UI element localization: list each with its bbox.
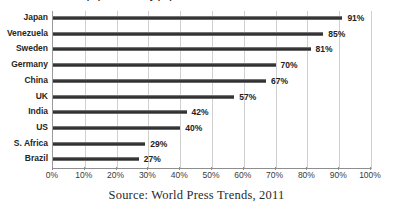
bar-row: 91% [53, 11, 371, 27]
category-label-germany: Germany [0, 57, 48, 71]
bar-value-label: 27% [144, 152, 161, 166]
bar-row: 57% [53, 90, 371, 106]
x-axis-ticks: 0%10%20%30%40%50%60%70%80%90%100% [52, 170, 372, 184]
x-tick-label: 30% [139, 170, 156, 180]
bar-row: 42% [53, 105, 371, 121]
bar-sweden [53, 47, 311, 51]
category-label-india: India [0, 104, 48, 118]
bar-japan [53, 16, 342, 20]
plot-area: 91%85%81%70%67%57%42%40%29%27% [52, 11, 372, 169]
bar-value-label: 57% [239, 90, 256, 104]
bar-s-africa [53, 142, 145, 146]
bar-value-label: 67% [271, 74, 288, 88]
x-tick-label: 80% [298, 170, 315, 180]
bar-value-label: 40% [185, 121, 202, 135]
bar-china [53, 79, 266, 83]
bar-row: 29% [53, 137, 371, 153]
x-tick-label: 90% [330, 170, 347, 180]
category-label-us: US [0, 120, 48, 134]
category-label-s-africa: S. Africa [0, 136, 48, 150]
bar-row: 40% [53, 121, 371, 137]
gridline-100 [371, 11, 372, 168]
bar-value-label: 81% [316, 42, 333, 56]
bar-value-label: 91% [347, 11, 364, 25]
bar-us [53, 126, 180, 130]
clipped-chart-title-text: Newspapers read by population [62, 0, 207, 1]
x-tick-label: 20% [107, 170, 124, 180]
bar-row: 67% [53, 74, 371, 90]
bar-row: 85% [53, 27, 371, 43]
bars-layer: 91%85%81%70%67%57%42%40%29%27% [53, 11, 371, 168]
bar-value-label: 42% [192, 105, 209, 119]
x-tick-label: 70% [266, 170, 283, 180]
x-tick-label: 40% [171, 170, 188, 180]
bar-india [53, 110, 187, 114]
bar-brazil [53, 157, 139, 161]
source-caption: Source: World Press Trends, 2011 [0, 188, 393, 203]
bar-germany [53, 63, 276, 67]
x-tick-label: 10% [75, 170, 92, 180]
x-tick-label: 50% [202, 170, 219, 180]
bar-row: 81% [53, 42, 371, 58]
bar-value-label: 70% [281, 58, 298, 72]
x-tick-label: 60% [234, 170, 251, 180]
category-label-sweden: Sweden [0, 41, 48, 55]
bar-chart: JapanVenezuelaSwedenGermanyChinaUKIndiaU… [0, 5, 393, 187]
category-label-japan: Japan [0, 10, 48, 24]
category-label-venezuela: Venezuela [0, 26, 48, 40]
x-tick-label: 0% [46, 170, 58, 180]
bar-row: 27% [53, 152, 371, 168]
bar-venezuela [53, 32, 323, 36]
x-tick-label: 100% [359, 170, 381, 180]
bar-uk [53, 95, 234, 99]
category-label-brazil: Brazil [0, 151, 48, 165]
bar-value-label: 29% [150, 137, 167, 151]
category-label-uk: UK [0, 89, 48, 103]
bar-row: 70% [53, 58, 371, 74]
category-label-china: China [0, 73, 48, 87]
bar-value-label: 85% [328, 27, 345, 41]
